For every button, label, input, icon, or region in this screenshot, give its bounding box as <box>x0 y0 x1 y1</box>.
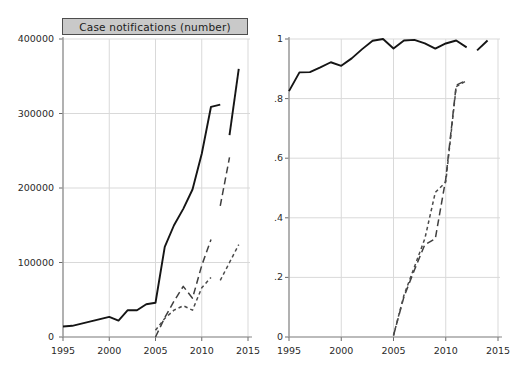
right-series-solid-series-seg1 <box>477 40 487 50</box>
right-series-long-dash-series-seg0 <box>394 80 467 335</box>
left-series-solid-series-seg1 <box>230 69 239 135</box>
right-series-solid-series-seg0 <box>289 39 467 91</box>
plot-lines-layer <box>0 0 515 381</box>
left-series-short-dash-series-seg0 <box>156 277 212 330</box>
left-series-long-dash-series-seg1 <box>220 157 229 205</box>
figure-canvas: Case notifications (number) Age disaggre… <box>0 0 515 381</box>
left-series-solid-series-seg0 <box>63 105 220 327</box>
